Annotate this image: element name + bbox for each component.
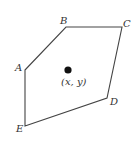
interior-point [64,66,71,73]
vertex-label-b: B [59,15,67,26]
vertex-label-a: A [14,62,22,73]
vertex-label-d: D [109,96,118,107]
vertex-label-e: E [15,123,24,134]
pentagon-diagram: A B C D E (x, y) [0,0,138,141]
point-label: (x, y) [61,76,87,87]
vertex-label-c: C [123,18,131,29]
